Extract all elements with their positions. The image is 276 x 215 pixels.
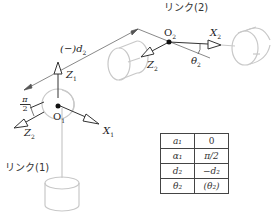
dh-diagram: リンク(2) リンク(1) (−)d2 Z1 X1 O1 Z2 π 2 O2 X… — [0, 0, 276, 215]
offset-label: (−)d2 — [60, 44, 86, 56]
o1-dot — [56, 104, 61, 109]
link1-label: リンク(1) — [5, 163, 49, 173]
param-cell: a₁ — [161, 134, 195, 149]
alpha-arc — [30, 104, 34, 116]
value-cell: −d₂ — [195, 164, 229, 179]
offset-dimension-line — [24, 29, 210, 90]
param-cell: d₂ — [161, 164, 195, 179]
link2-label: リンク(2) — [164, 3, 208, 13]
table-row: θ₂ (θ₂) — [161, 179, 229, 194]
link1-base-cylinder — [45, 177, 79, 211]
param-cell: α₁ — [161, 149, 195, 164]
dh-parameter-table: a₁ 0 α₁ π/2 d₂ −d₂ θ₂ (θ₂) — [160, 133, 229, 194]
x2-label: X2 — [210, 28, 221, 40]
z2-axis — [141, 42, 169, 57]
z1-label: Z1 — [66, 70, 77, 82]
x2-axis — [169, 40, 235, 49]
o2-dot — [167, 40, 172, 45]
value-cell: 0 — [195, 134, 229, 149]
o1-label: O1 — [53, 112, 65, 124]
link2-mid-cylinder — [108, 41, 148, 80]
diagram-graphics — [0, 0, 276, 215]
link2-end-cylinder — [232, 27, 270, 65]
param-cell: θ₂ — [161, 179, 195, 194]
table-row: d₂ −d₂ — [161, 164, 229, 179]
table-row: a₁ 0 — [161, 134, 229, 149]
theta2-label: θ2 — [191, 56, 201, 68]
value-cell: π/2 — [195, 149, 229, 164]
table-row: α₁ π/2 — [161, 149, 229, 164]
z2-label: Z2 — [147, 60, 158, 72]
alpha-fraction: π 2 — [20, 96, 30, 113]
z1-axis — [54, 62, 62, 98]
theta2-arc — [198, 44, 200, 54]
x1-label: X1 — [103, 126, 114, 138]
o2-label: O2 — [164, 28, 176, 40]
value-cell: (θ₂) — [195, 179, 229, 194]
z2-label-joint1: Z2 — [24, 128, 35, 140]
